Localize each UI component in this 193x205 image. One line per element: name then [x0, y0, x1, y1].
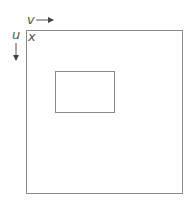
inner-subregion — [56, 72, 115, 113]
image-coordinate-diagram: v u x — [0, 0, 193, 205]
v-axis-label: v — [27, 12, 35, 27]
x-corner-label: x — [27, 29, 36, 44]
u-axis-label: u — [12, 27, 20, 42]
